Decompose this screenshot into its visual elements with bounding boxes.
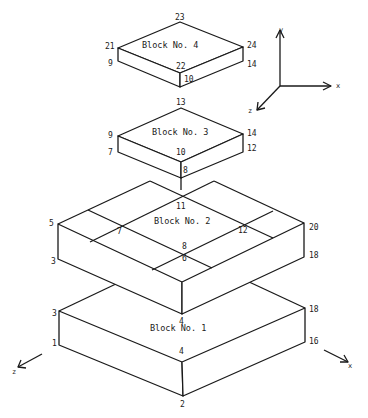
node-label: 14 <box>247 129 257 138</box>
node-label: 7 <box>108 148 113 157</box>
node-label: 11 <box>176 202 186 211</box>
node-label: 16 <box>309 337 319 346</box>
node-label: 9 <box>108 131 113 140</box>
block-1-back-right-edge <box>247 281 305 308</box>
node-label: 6 <box>182 254 187 263</box>
node-label: 12 <box>238 226 248 235</box>
block-2-grid-line <box>150 181 273 238</box>
node-label: 21 <box>105 42 115 51</box>
block-2-label: Block No. 2 <box>154 216 210 226</box>
node-label: 9 <box>108 59 113 68</box>
node-label: 8 <box>183 166 188 175</box>
node-label: 23 <box>175 13 185 22</box>
block-4: Block No. 4 21 23 24 22 9 14 10 <box>105 13 257 87</box>
node-label: 18 <box>309 305 319 314</box>
node-label: 14 <box>247 60 257 69</box>
node-label: 18 <box>309 251 319 260</box>
node-label: 2 <box>180 400 185 409</box>
node-label: 7 <box>117 227 122 236</box>
node-label: 4 <box>179 347 184 356</box>
node-label: 10 <box>176 148 186 157</box>
node-label: 3 <box>52 309 57 318</box>
axis-label: x <box>336 82 340 90</box>
z-axis-bottom <box>18 354 42 367</box>
block-2-right-face <box>182 223 304 314</box>
block-4-label: Block No. 4 <box>142 40 198 50</box>
node-label: 24 <box>247 41 257 50</box>
node-label: 13 <box>176 98 186 107</box>
block-3-label: Block No. 3 <box>152 127 208 137</box>
axis-label: z <box>248 107 252 115</box>
node-label: 20 <box>309 223 319 232</box>
node-label: 3 <box>51 257 56 266</box>
block-1-back-left-edge <box>59 283 118 311</box>
axis-label: y <box>279 26 283 34</box>
block-2-left-face <box>58 224 182 314</box>
axis-label: x <box>348 362 352 370</box>
block-2-grid-line <box>90 181 214 242</box>
coordinate-axes-top: y x z <box>248 26 340 115</box>
node-label: 1 <box>52 339 57 348</box>
block-diagram: Block No. 1 3 18 4 1 16 2 Block No. 2 5 … <box>0 0 368 418</box>
block-1-right-face <box>182 308 305 396</box>
axis-label: z <box>12 368 16 376</box>
block-2: Block No. 2 5 20 3 18 4 11 7 12 8 6 <box>49 178 319 326</box>
z-axis <box>257 86 280 110</box>
node-label: 4 <box>179 317 184 326</box>
node-label: 8 <box>182 242 187 251</box>
node-label: 22 <box>176 62 186 71</box>
node-label: 12 <box>247 144 257 153</box>
block-3: Block No. 3 9 13 14 10 7 12 8 <box>108 98 257 178</box>
node-label: 5 <box>49 219 54 228</box>
node-label: 10 <box>184 75 194 84</box>
